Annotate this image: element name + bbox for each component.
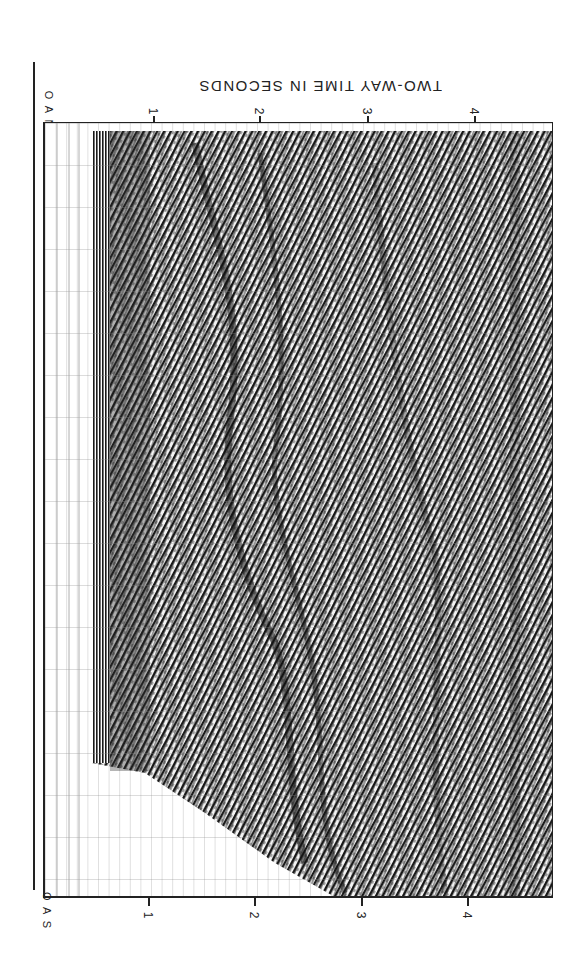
seismic-section-graphic	[45, 123, 553, 897]
axis-title: TWO-WAY TIME IN SECONDS	[170, 78, 470, 95]
bottom-tick-1	[148, 898, 150, 906]
bottom-tick-label-3: 3	[354, 908, 368, 922]
seismic-panel	[43, 122, 553, 898]
bottom-tick-label-1: 1	[141, 908, 155, 922]
bottom-corner-label: O A S	[41, 892, 53, 930]
bottom-tick-3	[361, 898, 363, 906]
bottom-tick-label-2: 2	[247, 908, 261, 922]
bottom-tick-4	[467, 898, 469, 906]
margin-rule	[33, 62, 35, 890]
bottom-tick-2	[254, 898, 256, 906]
bottom-tick-label-4: 4	[460, 908, 474, 922]
